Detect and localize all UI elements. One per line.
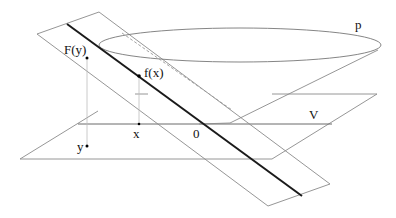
label-f-x: f(x) [144, 66, 164, 79]
label-origin: 0 [193, 127, 200, 140]
label-y: y [77, 140, 84, 153]
diagram-canvas: F(y) f(x) p V x y 0 [0, 0, 396, 218]
point-y [86, 145, 89, 148]
label-x: x [133, 127, 140, 140]
diagram-svg [0, 0, 396, 218]
ellipse-p [99, 28, 381, 62]
label-F-y: F(y) [64, 43, 86, 56]
label-p: p [355, 18, 362, 31]
point-x [138, 123, 141, 126]
point-f-x [137, 74, 141, 78]
label-V: V [309, 108, 318, 121]
